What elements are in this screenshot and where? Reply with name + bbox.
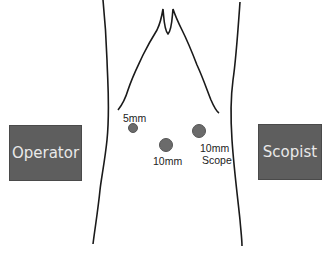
operator-box: Operator [9,125,82,181]
left-body-contour [93,0,109,244]
port-10mm-marker [159,138,173,152]
right-body-contour [231,2,242,246]
port-scope-marker [192,124,206,138]
costal-margin [118,9,219,113]
port-scope-label-line2: Scope [202,154,232,166]
port-scope-label-line1: 10mm [200,142,229,154]
port-5mm-label: 5mm [123,112,146,124]
port-5mm-marker [128,123,138,133]
scopist-box: Scopist [258,124,322,180]
port-10mm-label: 10mm [153,155,182,167]
operator-label: Operator [12,144,79,162]
scopist-label: Scopist [263,143,317,161]
